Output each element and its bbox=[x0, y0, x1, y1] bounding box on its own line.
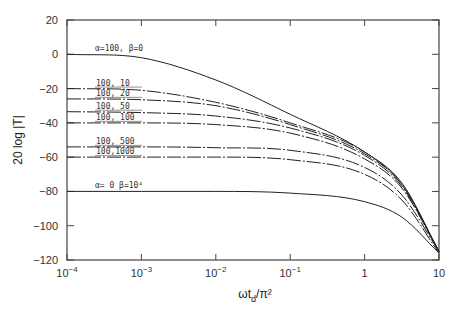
curve-label: 100, 500 bbox=[96, 137, 135, 146]
y-axis-title: 20 log |T| bbox=[11, 115, 25, 165]
curve-label: 100, 20 bbox=[96, 89, 130, 98]
y-tick-label: −80 bbox=[39, 185, 58, 197]
y-tick-label: −100 bbox=[33, 220, 58, 232]
curve-label: α= 0 β=10⁴ bbox=[95, 181, 143, 190]
x-tick-label: 10 bbox=[433, 267, 445, 279]
curve--100-500 bbox=[67, 147, 439, 252]
x-tick-label: 1 bbox=[362, 267, 368, 279]
curve-label: 100, 100 bbox=[96, 113, 135, 122]
curve-label: 100,1000 bbox=[96, 147, 135, 156]
curve-label: 100, 50 bbox=[96, 102, 130, 111]
x-axis-title: ωtd/π² bbox=[238, 287, 271, 304]
y-tick-label: 20 bbox=[46, 14, 58, 26]
y-tick-label: −20 bbox=[39, 83, 58, 95]
curve--0-10-4 bbox=[67, 191, 439, 253]
x-tick-label: 10−2 bbox=[205, 265, 227, 279]
x-axis-title-tail: /π² bbox=[256, 287, 272, 301]
curve-labels: α=100, β=0100, 10100, 20100, 50100, 1001… bbox=[95, 44, 143, 190]
curve-label: 100, 10 bbox=[96, 79, 130, 88]
x-axis-title-main: ωt bbox=[238, 287, 251, 301]
y-tick-label: −120 bbox=[33, 254, 58, 266]
bode-magnitude-chart: 200−20−40−60−80−100−120 10−410−310−210−1… bbox=[0, 0, 457, 320]
x-tick-label: 10−1 bbox=[280, 265, 302, 279]
x-tick-label: 10−3 bbox=[131, 265, 153, 279]
curve--100-1000 bbox=[67, 157, 439, 253]
x-tick-label: 10−4 bbox=[56, 265, 78, 279]
y-tick-label: 0 bbox=[52, 48, 58, 60]
y-tick-label: −60 bbox=[39, 151, 58, 163]
curve-label: α=100, β=0 bbox=[95, 44, 143, 53]
y-tick-label: −40 bbox=[39, 117, 58, 129]
